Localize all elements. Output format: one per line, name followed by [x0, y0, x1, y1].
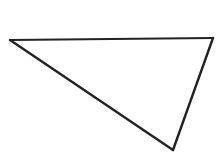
- figure-canvas: [0, 0, 221, 158]
- triangle-top-edge: [10, 38, 213, 40]
- triangle-figure-svg: [0, 0, 221, 158]
- triangle-shape: [10, 38, 213, 150]
- triangle-hypotenuse-edge: [10, 40, 173, 150]
- triangle-right-edge: [173, 38, 213, 150]
